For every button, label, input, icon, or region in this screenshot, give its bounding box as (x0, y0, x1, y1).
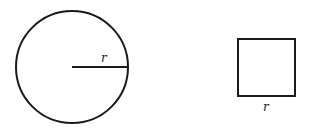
square-figure: r (238, 39, 295, 114)
side-label: r (263, 100, 270, 114)
geometry-diagram: r r (0, 0, 309, 130)
circle-figure: r (16, 11, 128, 123)
square-shape (238, 39, 295, 96)
radius-label: r (101, 51, 108, 65)
